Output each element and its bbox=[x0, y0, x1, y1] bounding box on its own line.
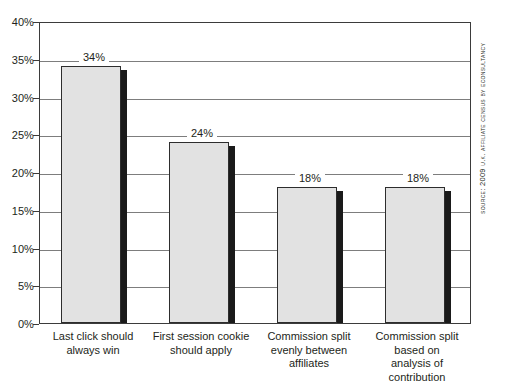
category-label-line: affiliates bbox=[255, 357, 363, 371]
category-label-line: Last click should bbox=[39, 330, 147, 344]
y-axis-tick-label: 20% bbox=[0, 167, 34, 179]
category-label-line: contribution bbox=[363, 371, 471, 385]
bar[interactable] bbox=[169, 142, 229, 323]
bar-group[interactable]: 24% bbox=[169, 21, 235, 323]
category-label-line: Commission split bbox=[255, 330, 363, 344]
bar-shadow bbox=[337, 191, 343, 323]
plot-area: 34%24%18%18% bbox=[39, 22, 471, 324]
bar-group[interactable]: 34% bbox=[61, 21, 127, 323]
bar-value-label: 18% bbox=[295, 172, 325, 184]
bar-shadow bbox=[121, 70, 127, 323]
bar-value: 18% bbox=[379, 172, 457, 184]
y-axis-tick-label: 35% bbox=[0, 54, 34, 66]
y-axis-tick-label: 40% bbox=[0, 16, 34, 28]
y-axis-tick-label: 25% bbox=[0, 129, 34, 141]
y-axis-tick-label: 5% bbox=[0, 280, 34, 292]
bar[interactable] bbox=[277, 187, 337, 323]
category-label-line: should apply bbox=[147, 344, 255, 358]
bar-shadow bbox=[229, 146, 235, 323]
bar-chart: 0%5%10%15%20%25%30%35%40% 34%24%18%18% L… bbox=[0, 0, 508, 390]
x-axis-category-label: First session cookieshould apply bbox=[147, 330, 255, 357]
bar-value-label: 24% bbox=[187, 127, 217, 139]
bar-value: 24% bbox=[163, 127, 241, 139]
category-label-line: Commission split bbox=[363, 330, 471, 344]
bar-shadow bbox=[445, 191, 451, 323]
bar-group[interactable]: 18% bbox=[277, 21, 343, 323]
bar-group[interactable]: 18% bbox=[385, 21, 451, 323]
bar[interactable] bbox=[385, 187, 445, 323]
category-label-line: analysis of bbox=[363, 357, 471, 371]
x-axis-category-label: Last click shouldalways win bbox=[39, 330, 147, 357]
source-note-text: Source: 2009 U.K. Affiliate Census by Ec… bbox=[478, 43, 487, 214]
category-label-line: based on bbox=[363, 344, 471, 358]
y-axis-tick-label: 15% bbox=[0, 205, 34, 217]
bar-value: 18% bbox=[271, 172, 349, 184]
y-axis-tick-label: 30% bbox=[0, 92, 34, 104]
x-axis-category-label: Commission splitevenly betweenaffiliates bbox=[255, 330, 363, 371]
category-label-line: First session cookie bbox=[147, 330, 255, 344]
bar[interactable] bbox=[61, 66, 121, 323]
y-axis-tick-label: 0% bbox=[0, 318, 34, 330]
category-label-line: always win bbox=[39, 344, 147, 358]
source-note: Source: 2009 U.K. Affiliate Census by Ec… bbox=[478, 200, 487, 214]
x-axis-category-label: Commission splitbased onanalysis ofcontr… bbox=[363, 330, 471, 384]
bar-value: 34% bbox=[55, 51, 133, 63]
y-axis-tick-mark bbox=[33, 324, 39, 325]
category-label-line: evenly between bbox=[255, 344, 363, 358]
bar-value-label: 34% bbox=[79, 51, 109, 63]
bar-value-label: 18% bbox=[403, 172, 433, 184]
y-axis-tick-label: 10% bbox=[0, 243, 34, 255]
